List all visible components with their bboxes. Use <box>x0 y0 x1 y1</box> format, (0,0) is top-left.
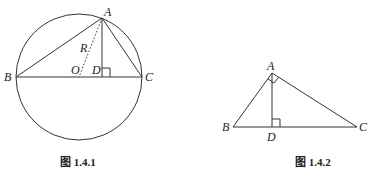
label-r: R <box>79 41 88 55</box>
label-d: D <box>91 63 101 77</box>
segment-ab <box>16 18 102 77</box>
label-b: B <box>222 120 230 134</box>
segment-ab <box>233 73 272 127</box>
caption-figure-1: 图 1.4.1 <box>60 156 96 168</box>
label-d: D <box>266 130 276 144</box>
label-a: A <box>103 5 112 19</box>
label-c: C <box>145 70 154 84</box>
label-a: A <box>266 59 275 73</box>
figure-1 <box>16 14 142 140</box>
diagram-canvas: A B C D O R 图 1.4.1 A B C D 图 1.4.2 <box>0 0 370 170</box>
label-o: O <box>71 63 80 77</box>
right-angle-mark-a <box>268 77 279 83</box>
label-b: B <box>4 70 12 84</box>
figure-2 <box>233 73 357 127</box>
caption-figure-2: 图 1.4.2 <box>295 156 331 168</box>
label-c: C <box>359 120 368 134</box>
segment-ac <box>272 73 357 127</box>
right-angle-mark-d <box>272 119 280 127</box>
right-angle-mark <box>102 68 110 77</box>
